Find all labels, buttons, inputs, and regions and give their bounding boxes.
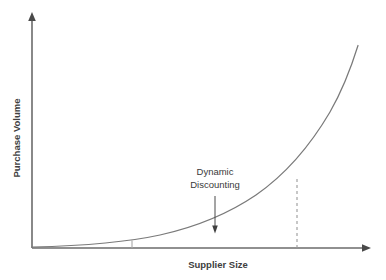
annotation-label-line2: Discounting (190, 179, 240, 190)
x-axis-title: Supplier Size (188, 259, 248, 270)
chart-container: Dynamic Discounting Supplier Size Purcha… (0, 0, 386, 280)
chart-background (0, 0, 386, 280)
y-axis-title: Purchase Volume (11, 98, 22, 177)
exponential-growth-chart: Dynamic Discounting Supplier Size Purcha… (0, 0, 386, 280)
annotation-label-line1: Dynamic (197, 166, 234, 177)
